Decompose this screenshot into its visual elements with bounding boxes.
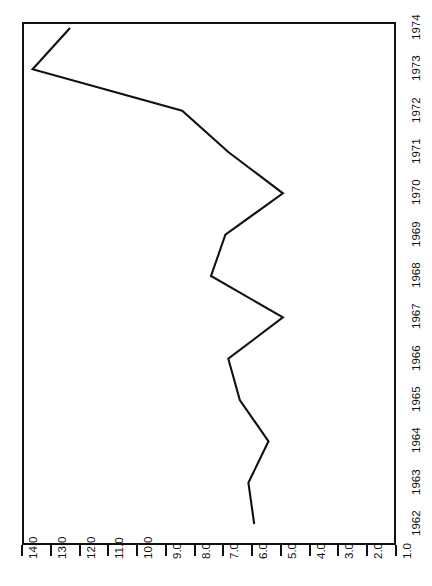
value-tick-7-0 [222,545,224,556]
year-tick-label: 1964 [410,428,422,454]
value-tick-label: 5.0 [286,543,298,559]
value-tick-6-0 [251,545,253,556]
value-tick-10-0 [136,545,138,556]
value-tick-label: 1.0 [401,543,413,559]
value-tick-9-0 [165,545,167,556]
year-tick-label: 1965 [410,386,422,412]
year-tick-label: 1970 [410,180,422,206]
value-tick-13-0 [50,545,52,556]
year-tick-label: 1963 [410,469,422,495]
value-tick-label: 2.0 [372,543,384,559]
value-tick-11-0 [107,545,109,556]
year-tick-label: 1967 [410,304,422,330]
value-tick-label: 8.0 [200,543,212,559]
year-tick-label: 1969 [410,221,422,247]
chart-canvas: 14.013.012.011.010.09.08.07.06.05.04.03.… [0,0,432,586]
value-tick-label: 10.0 [142,537,154,559]
value-tick-label: 3.0 [343,543,355,559]
value-tick-label: 7.0 [228,543,240,559]
value-tick-label: 14.0 [27,537,39,559]
value-tick-label: 12.0 [85,537,97,559]
year-tick-label: 1972 [410,97,422,123]
value-tick-label: 9.0 [171,543,183,559]
value-tick-4-0 [309,545,311,556]
year-tick-label: 1962 [410,510,422,536]
value-tick-2-0 [366,545,368,556]
value-tick-label: 6.0 [257,543,269,559]
value-tick-8-0 [194,545,196,556]
plot-frame [22,22,396,545]
year-tick-label: 1968 [410,262,422,288]
year-tick-label: 1974 [410,14,422,40]
value-tick-label: 13.0 [56,537,68,559]
value-tick-label: 4.0 [315,543,327,559]
value-tick-12-0 [79,545,81,556]
value-tick-3-0 [337,545,339,556]
value-tick-label: 11.0 [113,537,125,559]
year-tick-label: 1971 [410,138,422,164]
series-polyline [33,28,283,524]
value-tick-5-0 [280,545,282,556]
value-tick-1-0 [395,545,397,556]
value-tick-14-0 [21,545,23,556]
year-tick-label: 1966 [410,345,422,371]
data-line-series [24,24,398,547]
year-tick-label: 1973 [410,56,422,82]
